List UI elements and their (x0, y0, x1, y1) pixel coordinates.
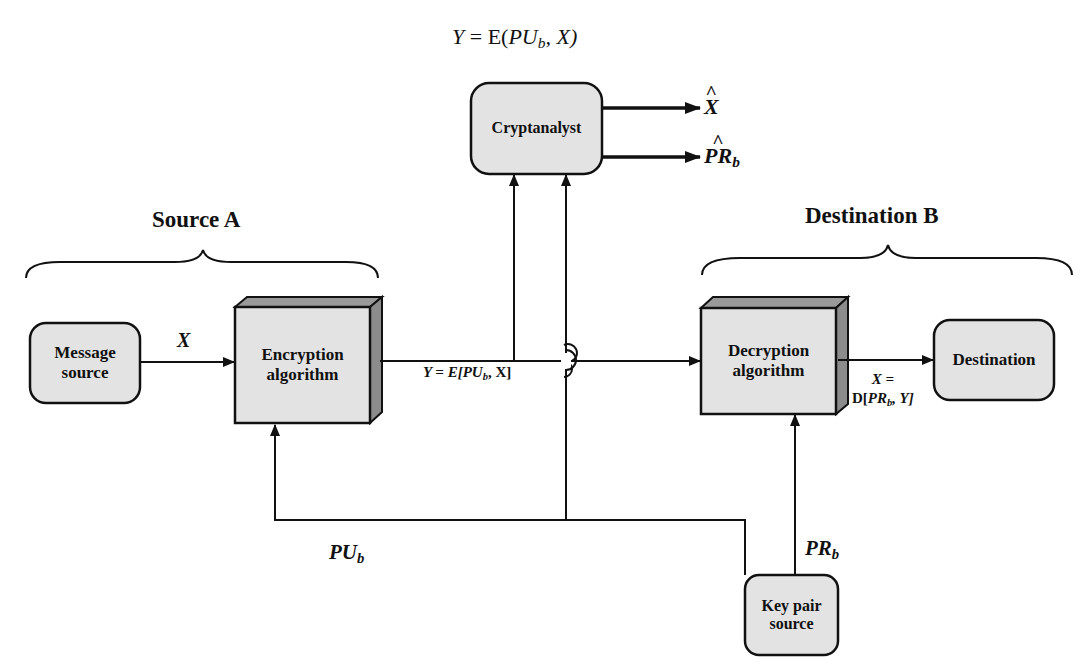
decrypted-label: X = D[PRb, Y] (852, 370, 914, 409)
destination-group-label: Destination B (805, 203, 939, 229)
source-brace (26, 250, 378, 278)
private-key-var: PR (805, 536, 832, 560)
encryption-line2: algorithm (267, 365, 339, 385)
key-pair-line1: Key pair (762, 597, 822, 615)
encryption-label: Encryption algorithm (235, 307, 370, 423)
estimate-x-label: X (704, 94, 719, 120)
cryptanalyst-label: Cryptanalyst (471, 83, 602, 174)
ciphertext-pre: Y = E[ (423, 364, 463, 380)
decrypted-var: PR (868, 390, 887, 406)
source-group-label: Source A (152, 207, 240, 233)
estimate-prb-var: PR (704, 143, 732, 169)
encryption-line1: Encryption (261, 345, 343, 365)
decryption-box-side (836, 297, 848, 414)
decryption-box-top (701, 297, 848, 308)
key-pair-source-label: Key pair source (745, 575, 838, 655)
message-source-line2: source (62, 363, 109, 383)
estimate-x-var: X (704, 94, 719, 120)
public-key-var: PU (329, 540, 357, 564)
decryption-line2: algorithm (733, 361, 805, 381)
private-key-label: PRb (805, 536, 839, 563)
private-key-sub: b (832, 546, 839, 562)
message-source-line1: Message (54, 343, 115, 363)
decrypted-line1: X = (852, 370, 914, 389)
decryption-line1: Decryption (728, 341, 809, 361)
key-pair-line2: source (769, 615, 813, 633)
decryption-label: Decryption algorithm (701, 308, 836, 414)
estimate-prb-label: PRb (704, 143, 740, 171)
estimate-prb-sub: b (732, 153, 740, 170)
public-key-label: PUb (329, 540, 364, 567)
encryption-box-top (235, 297, 382, 307)
message-source-label: Message source (30, 323, 140, 403)
ciphertext-label: Y = E[PUb, X] (423, 364, 511, 382)
plaintext-label: X (177, 329, 190, 352)
destination-brace (702, 245, 1072, 275)
public-key-sub: b (357, 550, 364, 566)
decrypted-line2: D[PRb, Y] (852, 389, 914, 409)
ciphertext-var: PU (463, 364, 483, 380)
decrypted-post: , Y] (892, 390, 913, 406)
ciphertext-post: , X] (488, 364, 511, 380)
destination-label: Destination (934, 320, 1054, 400)
decrypted-pre: D[ (852, 390, 868, 406)
